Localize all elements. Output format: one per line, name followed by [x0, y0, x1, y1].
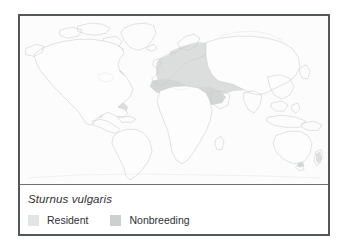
- world-map-panel: [20, 16, 328, 185]
- nonbreeding-swatch: [110, 215, 121, 226]
- figure-root: Sturnus vulgaris Resident Nonbreeding: [0, 0, 346, 250]
- resident-swatch: [28, 215, 39, 226]
- world-map-svg: [20, 16, 328, 184]
- legend-entry-resident: Resident: [28, 214, 88, 226]
- legend-entry-nonbreeding: Nonbreeding: [110, 214, 189, 226]
- legend-label-resident: Resident: [47, 214, 88, 226]
- distribution-map-figure: Sturnus vulgaris Resident Nonbreeding: [18, 14, 330, 236]
- species-name: Sturnus vulgaris: [28, 192, 328, 206]
- legend-row: Resident Nonbreeding: [28, 214, 328, 226]
- legend-label-nonbreeding: Nonbreeding: [129, 214, 189, 226]
- legend-panel: Sturnus vulgaris Resident Nonbreeding: [20, 185, 328, 234]
